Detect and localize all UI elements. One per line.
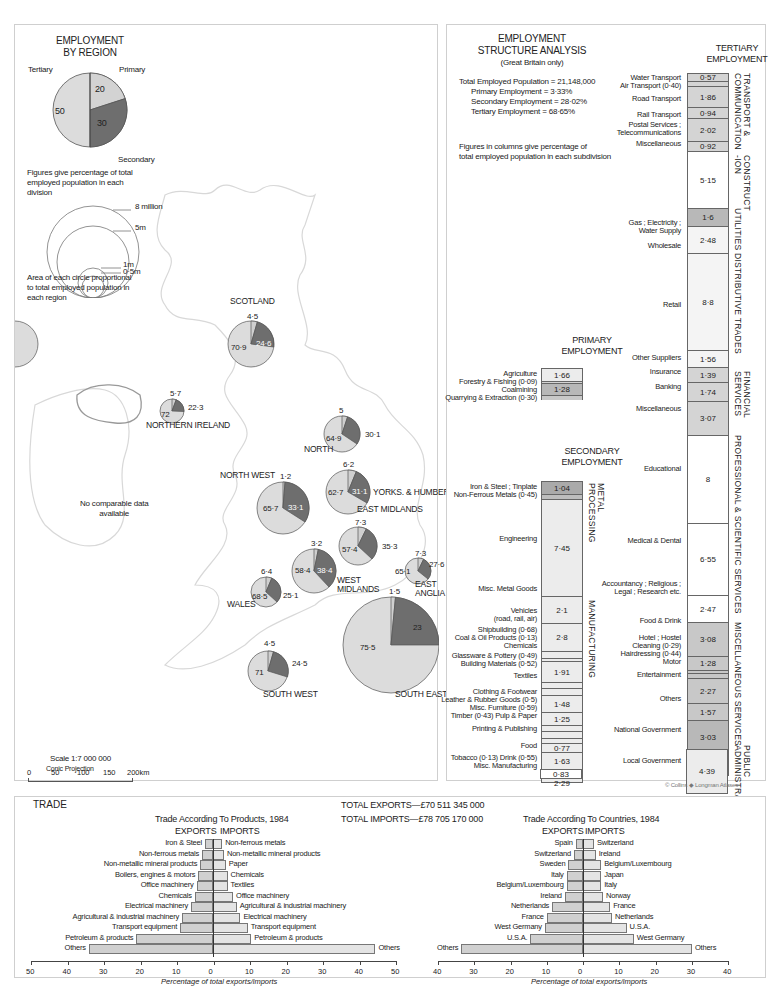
zero-line bbox=[583, 839, 584, 957]
scale-title: Scale 1:7 000 000 bbox=[50, 754, 111, 763]
seg-iron-steel: 1·04 bbox=[542, 482, 582, 495]
export-bar bbox=[461, 944, 583, 954]
region-label-south-east: SOUTH EAST bbox=[395, 690, 447, 699]
label-other-suppliers: Other Suppliers bbox=[632, 354, 681, 362]
north-secondary-value: 30·1 bbox=[365, 430, 380, 439]
yorks-tertiary-value: 62·7 bbox=[328, 488, 343, 497]
export-bar bbox=[202, 850, 213, 860]
label-local-govt: Local Government bbox=[623, 757, 681, 765]
structure-panel: EMPLOYMENT STRUCTURE ANALYSIS (Great Bri… bbox=[446, 24, 766, 781]
axis-tick-mark bbox=[68, 961, 69, 965]
import-bar bbox=[213, 871, 228, 881]
export-label: Sweden bbox=[540, 859, 566, 869]
import-label: Norway bbox=[606, 891, 630, 901]
export-label: Spain bbox=[555, 838, 573, 848]
seg-hotel: 1·28 bbox=[688, 657, 728, 671]
axis-tick-mark bbox=[438, 961, 439, 965]
seg-postal: 2·02 bbox=[688, 119, 728, 142]
no-data-note: No comparable data available bbox=[80, 499, 148, 519]
nw-secondary-value: 33·1 bbox=[288, 503, 303, 512]
seg-engineering: 7·45 bbox=[542, 500, 582, 597]
label-textiles: Textiles bbox=[514, 672, 537, 680]
axis-tick-label: 0 bbox=[578, 967, 582, 976]
seg-chemicals: 1·91 bbox=[542, 662, 582, 683]
import-label: Others bbox=[695, 943, 716, 953]
export-bar bbox=[552, 902, 583, 912]
label-utilities: Gas ; Electricity ;Water Supply bbox=[629, 219, 681, 235]
axis-tick-label: 40 bbox=[355, 967, 363, 976]
ni-tertiary-value: 72 bbox=[161, 410, 170, 419]
label-postal: Postal Services ;Telecommunications bbox=[617, 121, 681, 137]
export-bar bbox=[195, 892, 213, 902]
scale-line bbox=[28, 778, 133, 782]
trade-title: TRADE bbox=[33, 799, 67, 810]
group-construction: CONSTRUCT-ION bbox=[733, 155, 751, 211]
seg-insurance: 1·39 bbox=[688, 368, 728, 383]
import-bar bbox=[583, 944, 692, 954]
label-engineering: Engineering bbox=[499, 535, 537, 543]
region-label-wales: WALES bbox=[227, 600, 255, 609]
axis-tick-label: 20 bbox=[651, 967, 659, 976]
em-secondary-value: 35·3 bbox=[382, 542, 397, 551]
tertiary-title: TERTIARY EMPLOYMENT bbox=[702, 43, 772, 65]
region-label-east-midlands: EAST MIDLANDS bbox=[357, 505, 423, 514]
secondary-title: SECONDARY EMPLOYMENT bbox=[547, 446, 637, 468]
export-label: Chemicals bbox=[159, 891, 192, 901]
seg-misc-transport: 0·92 bbox=[688, 142, 728, 152]
label-misc-financial: Miscellaneous bbox=[636, 405, 681, 413]
export-label: Ireland bbox=[540, 891, 562, 901]
seg-misc-metal: 2·1 bbox=[542, 597, 582, 624]
label-non-ferrous: Non-Ferrous Metals (0·45) bbox=[454, 491, 537, 499]
secondary-pct-line: Secondary Employment = 28·02% bbox=[459, 97, 595, 107]
axis-tick-mark bbox=[396, 961, 397, 965]
export-bar bbox=[191, 902, 213, 912]
axis-tick-label: 30 bbox=[99, 967, 107, 976]
seg-misc-financial: 3·07 bbox=[688, 402, 728, 436]
scale-tick: 150 bbox=[103, 768, 116, 777]
export-bar bbox=[205, 839, 213, 849]
axis-tick-label: 50 bbox=[26, 967, 34, 976]
axis-tick-label: 10 bbox=[245, 967, 253, 976]
total-imports: TOTAL IMPORTS—£78 705 170 000 bbox=[341, 815, 483, 824]
import-label: Non-metallic mineral products bbox=[227, 849, 320, 859]
axis-tick-mark bbox=[104, 961, 105, 965]
import-bar bbox=[583, 902, 610, 912]
axis-tick-mark bbox=[287, 961, 288, 965]
import-label: Paper bbox=[229, 859, 248, 869]
label-quarrying: Quarrying & Extraction (0·30) bbox=[445, 394, 537, 402]
wales-secondary-value: 25·1 bbox=[283, 591, 298, 600]
group-metal-processing: METALPROCESSING bbox=[587, 483, 605, 543]
axis-tick-label: 40 bbox=[63, 967, 71, 976]
structure-title-line: EMPLOYMENT bbox=[477, 33, 587, 45]
label-hotel: Hotel ; HostelCleaning (0·29)Hairdressin… bbox=[621, 634, 681, 666]
seg-medical: 6·55 bbox=[688, 524, 728, 596]
region-label-north-west: NORTH WEST bbox=[220, 471, 275, 480]
seg-clothing: 1·25 bbox=[542, 713, 582, 726]
trade-panel: TRADE TOTAL EXPORTS—£70 511 345 000 TOTA… bbox=[14, 796, 766, 978]
export-label: Others bbox=[437, 943, 458, 953]
scotland-primary-value: 4·5 bbox=[247, 312, 258, 321]
label-national-govt: National Government bbox=[614, 726, 681, 734]
group-misc-services: MISCELLANEOUS SERVICES bbox=[733, 622, 742, 746]
zero-line bbox=[213, 839, 214, 957]
label-road-transport: Road Transport bbox=[632, 95, 681, 103]
export-label: Office machinery bbox=[141, 880, 194, 890]
scotland-tertiary-value: 70·9 bbox=[231, 343, 246, 352]
region-label-north: NORTH bbox=[304, 445, 333, 454]
export-bar bbox=[198, 871, 213, 881]
sw-primary-value: 4·5 bbox=[264, 639, 275, 648]
axis-tick-label: 20 bbox=[282, 967, 290, 976]
axis-tick-label: 40 bbox=[433, 967, 441, 976]
import-label: Textiles bbox=[231, 880, 254, 890]
axis-tick-mark bbox=[547, 961, 548, 965]
north-tertiary-value: 64·9 bbox=[326, 434, 341, 443]
import-bar bbox=[583, 923, 627, 933]
axis-tick-mark bbox=[360, 961, 361, 965]
wm-secondary-value: 38·4 bbox=[317, 566, 332, 575]
axis-tick-mark bbox=[250, 961, 251, 965]
no-data-line: available bbox=[80, 509, 148, 519]
seg-agriculture: 1·66 bbox=[542, 369, 582, 382]
export-bar bbox=[565, 892, 583, 902]
label-printing: Printing & Publishing bbox=[472, 725, 537, 733]
seg-textiles: 1·48 bbox=[542, 696, 582, 713]
